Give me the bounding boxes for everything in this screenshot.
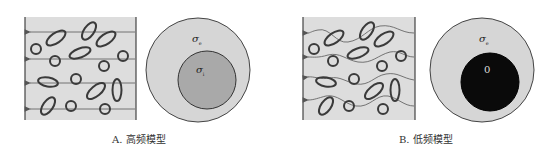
- outer-conductivity-label-b: σe: [479, 33, 489, 46]
- outer-conductivity-label-a: σe: [192, 33, 202, 46]
- diagram-canvas: [0, 0, 559, 148]
- inner-grain-conductive: [178, 51, 236, 109]
- inner-conductivity-label-b: 0: [484, 64, 490, 75]
- caption-panel-b: B. 低频模型: [399, 131, 453, 146]
- panel-b-medium: [303, 17, 415, 120]
- inner-conductivity-label-a: σi: [196, 64, 204, 77]
- inner-grain-nonconductive: [461, 53, 519, 111]
- caption-panel-a: A. 高频模型: [112, 131, 166, 146]
- panel-a-medium: [25, 17, 136, 120]
